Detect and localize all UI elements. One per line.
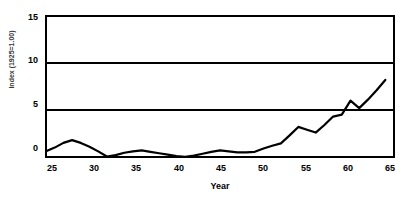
plot-background [46,16,394,157]
plot-area [0,0,407,205]
chart-figure: Economic Value of Commercial Land Index … [0,0,407,205]
